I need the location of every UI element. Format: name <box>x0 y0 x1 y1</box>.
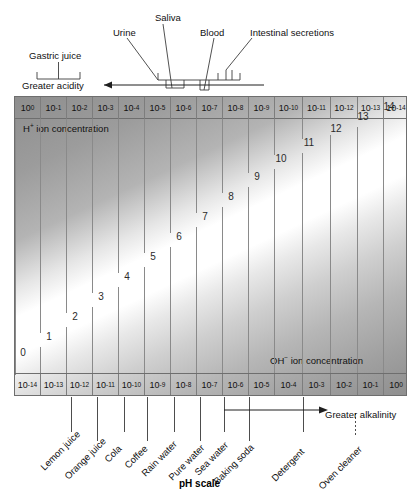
oh-exp-cell-14: 100 <box>383 374 407 396</box>
ph-number-10: 10 <box>274 153 288 164</box>
ph-number-14: 14 <box>382 101 396 112</box>
h-exp-cell-0: 100 <box>15 97 40 119</box>
leader-lemon-juice <box>71 397 72 432</box>
vline-8-upper <box>222 119 223 193</box>
vline-10-lower <box>274 169 275 375</box>
oh-exp-cell-8: 10-6 <box>222 374 248 396</box>
greater-acidity-label: Greater acidity <box>22 80 84 91</box>
oh-ion-label-post: ion concentration <box>288 355 363 366</box>
substance-label-cola: Cola <box>102 443 124 465</box>
h-exp-cell-3: 10-3 <box>92 97 118 119</box>
ph-number-1: 1 <box>42 331 56 342</box>
oh-ion-exponent-row: 10-14 10-13 10-12 10-11 10-10 10-9 10-8 … <box>15 373 406 395</box>
vline-0-upper <box>15 119 16 375</box>
h-exp-cell-4: 10-4 <box>118 97 144 119</box>
vline-9-upper <box>248 119 249 173</box>
h-exp-cell-2: 10-2 <box>66 97 92 119</box>
vline-1-lower <box>40 347 41 375</box>
ph-number-6: 6 <box>172 231 186 242</box>
ph-number-13: 13 <box>356 111 370 122</box>
oh-ion-concentration-label: OH− ion concentration <box>270 355 363 366</box>
oh-exp-cell-2: 10-12 <box>66 374 92 396</box>
h-ion-label-post: ion concentration <box>34 123 109 134</box>
oh-exp-cell-3: 10-11 <box>92 374 118 396</box>
leader-coffee <box>147 397 148 441</box>
h-exp-cell-12: 10-12 <box>330 97 357 119</box>
vline-2-lower <box>66 327 67 375</box>
h-exp-cell-6: 10-6 <box>170 97 196 119</box>
vline-3-lower <box>92 307 93 375</box>
vline-2-upper <box>66 119 67 313</box>
ph-number-0: 0 <box>16 347 30 358</box>
h-exp-cell-7: 10-7 <box>196 97 222 119</box>
vline-6-lower <box>170 247 171 375</box>
vline-4-lower <box>118 287 119 375</box>
figure-caption: pH scale <box>179 478 220 489</box>
ph-scale-figure: Gastric juice Urine Saliva Blood Intesti… <box>0 0 411 494</box>
substance-label-detergent: Detergent <box>269 446 306 483</box>
h-ion-exponent-row: 100 10-1 10-2 10-3 10-4 10-5 10-6 10-7 1… <box>15 97 406 119</box>
vline-11-lower <box>302 153 303 375</box>
leader-rain-water <box>174 397 175 432</box>
vline-5-lower <box>144 267 145 375</box>
greater-alkalinity-label: Greater alkalinity <box>325 409 396 420</box>
ph-gradient-panel: 100 10-1 10-2 10-3 10-4 10-5 10-6 10-7 1… <box>14 96 407 396</box>
h-exp-cell-8: 10-8 <box>222 97 248 119</box>
h-exp-cell-9: 10-9 <box>248 97 274 119</box>
ph-number-11: 11 <box>302 137 316 148</box>
ph-number-3: 3 <box>94 291 108 302</box>
vline-9-lower <box>248 187 249 375</box>
oh-exp-cell-11: 10-3 <box>302 374 330 396</box>
vline-4-upper <box>118 119 119 273</box>
leader-pure-water <box>200 397 201 441</box>
oh-exp-cell-4: 10-10 <box>118 374 144 396</box>
ph-number-12: 12 <box>329 123 343 134</box>
ph-number-8: 8 <box>224 191 238 202</box>
oh-exp-cell-13: 10-1 <box>357 374 383 396</box>
h-exp-cell-10: 10-10 <box>274 97 302 119</box>
vline-10-upper <box>274 119 275 155</box>
vline-1-upper <box>40 119 41 333</box>
oh-exp-cell-5: 10-9 <box>144 374 170 396</box>
ph-number-2: 2 <box>68 311 82 322</box>
oh-exp-cell-6: 10-8 <box>170 374 196 396</box>
oh-exp-cell-7: 10-7 <box>196 374 222 396</box>
ph-number-7: 7 <box>198 211 212 222</box>
vline-7-lower <box>196 227 197 375</box>
vline-14 <box>383 119 384 375</box>
oh-ion-label-pre: OH <box>270 355 284 366</box>
h-exp-cell-11: 10-11 <box>302 97 330 119</box>
vline-13-lower <box>357 127 358 375</box>
vline-5-upper <box>144 119 145 253</box>
ph-number-5: 5 <box>146 251 160 262</box>
substance-label-oven-cleaner: Oven cleaner <box>316 444 364 492</box>
oh-exp-cell-9: 10-5 <box>248 374 274 396</box>
greater-acidity-arrow-icon <box>96 78 296 98</box>
vline-12-lower <box>330 135 331 375</box>
oh-exp-cell-12: 10-2 <box>330 374 357 396</box>
oh-exp-cell-10: 10-4 <box>274 374 302 396</box>
ph-gradient-background <box>15 97 406 395</box>
h-exp-cell-5: 10-5 <box>144 97 170 119</box>
vline-8-lower <box>222 207 223 375</box>
h-exp-cell-1: 10-1 <box>40 97 66 119</box>
h-ion-label-pre: H <box>23 123 30 134</box>
vline-7-upper <box>196 119 197 213</box>
oh-exp-cell-0: 10-14 <box>15 374 40 396</box>
oh-exp-cell-1: 10-13 <box>40 374 66 396</box>
vline-11-upper <box>302 119 303 139</box>
ph-number-9: 9 <box>250 171 264 182</box>
vline-3-upper <box>92 119 93 293</box>
leader-cola <box>124 397 125 432</box>
ph-number-4: 4 <box>120 271 134 282</box>
leader-orange-juice <box>97 397 98 441</box>
vline-6-upper <box>170 119 171 233</box>
